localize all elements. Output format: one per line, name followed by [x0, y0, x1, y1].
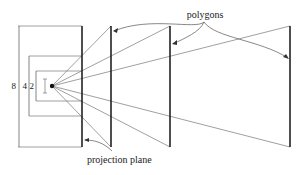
projection-plane-arrowhead — [84, 138, 89, 142]
projection-plane-leader — [85, 140, 112, 151]
eye-point — [50, 84, 54, 88]
inner-bracket — [43, 79, 47, 93]
polygons-leaders — [114, 22, 288, 58]
dimension-label-4: 4 — [23, 81, 28, 91]
box-size-2 — [36, 71, 82, 101]
projection-diagram: 8 4 2 polygons projection plane — [0, 0, 300, 175]
projection-plane-label: projection plane — [87, 154, 152, 165]
box-size-4 — [29, 56, 82, 116]
polygons-label: polygons — [187, 9, 224, 20]
projection-rays — [52, 26, 290, 147]
dimension-label-8: 8 — [12, 81, 17, 91]
dimension-label-2: 2 — [30, 81, 35, 91]
